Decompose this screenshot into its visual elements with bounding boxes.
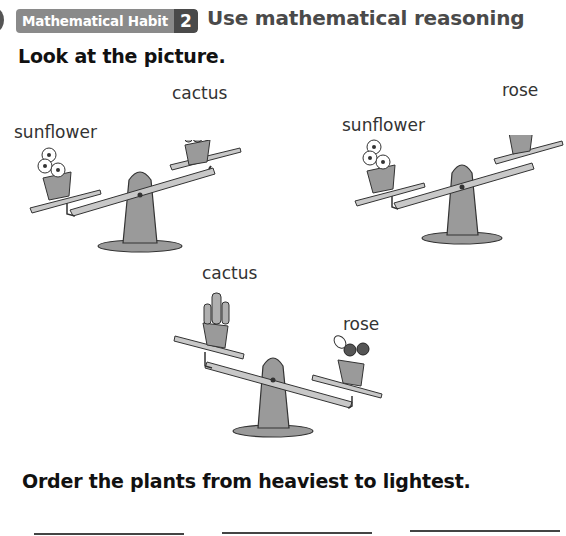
- answer-blank-3[interactable]: [410, 530, 560, 532]
- answer-blank-2[interactable]: [222, 532, 372, 534]
- plant-label-rose: rose: [502, 80, 538, 100]
- sunflower-pot-icon: [363, 140, 395, 193]
- balance-scale-2: [352, 135, 566, 247]
- cactus-pot-icon: [185, 140, 210, 165]
- balance-scale-3: [172, 290, 388, 440]
- cactus-pot-icon: [203, 293, 229, 348]
- habit-label: Mathematical Habit: [16, 9, 174, 33]
- habit-title: Use mathematical reasoning: [207, 6, 524, 30]
- plant-label-cactus: cactus: [202, 263, 257, 283]
- rose-pot-icon: [332, 333, 369, 386]
- balance-scale-1: [25, 140, 245, 258]
- plant-label-sunflower: sunflower: [342, 115, 425, 135]
- sunflower-pot-icon: [38, 148, 71, 200]
- habit-number: 2: [174, 9, 198, 33]
- plant-label-cactus: cactus: [172, 83, 227, 103]
- habit-badge: Mathematical Habit 2: [16, 9, 198, 33]
- plant-label-sunflower: sunflower: [14, 122, 97, 142]
- section-bullet-icon: [0, 9, 4, 31]
- question-text: Order the plants from heaviest to lighte…: [22, 470, 471, 492]
- answer-blank-1[interactable]: [34, 533, 184, 535]
- instruction-text: Look at the picture.: [18, 45, 226, 67]
